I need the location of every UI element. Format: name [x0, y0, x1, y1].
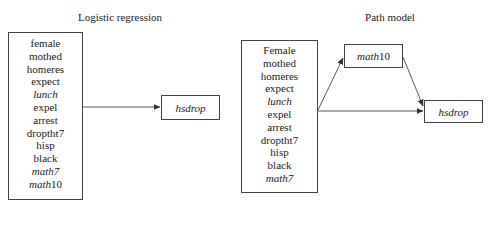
predictor-item: arrest — [241, 121, 318, 134]
mediator-label: math10 — [345, 50, 402, 62]
predictor-list-path: Female mothed homeres expect lunch expel… — [241, 44, 318, 185]
predictor-item: expect — [8, 75, 83, 88]
predictor-item: expel — [8, 101, 83, 114]
predictor-item: hisp — [8, 139, 83, 152]
mediator-box-math10: math10 — [344, 44, 403, 68]
edge-math10-to-hsdrop — [403, 57, 423, 106]
predictor-item: homeres — [8, 63, 83, 76]
predictor-list-logistic: female mothed homeres expect lunch expel… — [8, 37, 83, 191]
outcome-box-path: hsdrop — [424, 100, 483, 123]
edge-predictors-to-math10 — [318, 58, 343, 110]
predictor-item: expel — [241, 108, 318, 121]
predictor-item: Female — [241, 44, 318, 57]
predictor-item: math10 — [8, 178, 83, 191]
predictor-item: mothed — [8, 50, 83, 63]
predictor-prefix: math — [29, 178, 51, 190]
predictor-item: homeres — [241, 70, 318, 83]
predictor-item: hisp — [241, 146, 318, 159]
predictor-item: lunch — [8, 88, 83, 101]
predictor-item: lunch — [241, 95, 318, 108]
outcome-label: hsdrop — [162, 102, 219, 114]
predictor-item: black — [241, 159, 318, 172]
predictor-item: mothed — [241, 57, 318, 70]
predictor-item: expect — [241, 82, 318, 95]
predictor-item: math7 — [8, 165, 83, 178]
predictor-item: female — [8, 37, 83, 50]
outcome-box-logistic: hsdrop — [161, 95, 220, 120]
predictor-item: droptht7 — [241, 134, 318, 147]
predictor-item: math7 — [241, 172, 318, 185]
mediator-suffix: 10 — [379, 50, 390, 62]
predictor-item: black — [8, 152, 83, 165]
predictor-item: arrest — [8, 114, 83, 127]
mediator-prefix: math — [357, 50, 379, 62]
predictor-suffix: 10 — [51, 178, 62, 190]
outcome-label: hsdrop — [425, 106, 482, 118]
predictor-item: droptht7 — [8, 127, 83, 140]
